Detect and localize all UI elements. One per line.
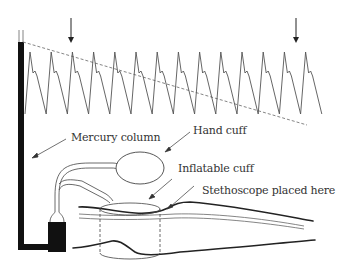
brachial-artery — [79, 214, 304, 229]
blood-pressure-diagram — [0, 0, 337, 268]
hand-cuff-bulb — [116, 152, 164, 184]
mercury-column-tube-top — [19, 30, 23, 42]
label-hand-cuff: Hand cuff — [193, 125, 246, 136]
label-stethoscope: Stethoscope placed here — [202, 185, 335, 196]
label-inflatable-cuff: Inflatable cuff — [178, 163, 254, 174]
inflatable-cuff — [100, 203, 160, 259]
mercury-column — [18, 42, 50, 250]
systolic-arrow-icon — [68, 18, 74, 43]
arterial-pressure-waveform — [25, 52, 322, 114]
mercury-reservoir — [48, 196, 66, 252]
arm-outline — [73, 202, 315, 255]
label-mercury-column: Mercury column — [71, 132, 160, 143]
cuff-pressure-dashed-line — [23, 42, 307, 125]
diastolic-arrow-icon — [293, 18, 299, 43]
rubber-tubing — [55, 163, 122, 203]
